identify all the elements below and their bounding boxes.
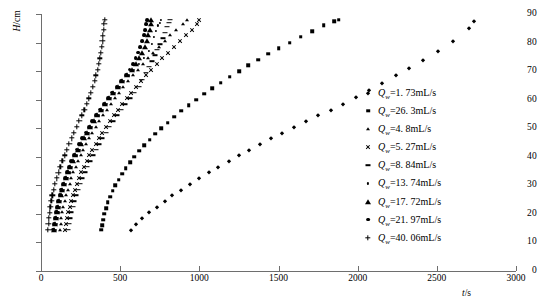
data-point	[58, 164, 63, 169]
data-point	[64, 147, 69, 152]
data-point	[49, 198, 54, 203]
data-point	[50, 193, 55, 198]
legend-marker-triangle-big-icon	[365, 199, 371, 204]
data-point	[56, 170, 61, 175]
x-tick-label: 500	[98, 273, 142, 283]
data-point	[88, 90, 93, 95]
legend-marker-plus-icon	[365, 235, 370, 240]
legend-marker-diamond-icon	[366, 91, 370, 95]
legend-marker-dash-icon	[366, 165, 371, 167]
legend-item[interactable]: Qw=8. 84mL/s	[360, 156, 500, 174]
data-point	[51, 187, 56, 192]
data-point	[54, 175, 59, 180]
data-point	[92, 78, 97, 83]
data-point	[46, 221, 51, 226]
legend-item[interactable]: Qw=40. 06mL/s	[360, 229, 500, 247]
x-tick-label: 0	[19, 273, 63, 283]
legend-marker-cross-icon	[366, 145, 371, 150]
x-tick-label: 1000	[177, 273, 221, 283]
data-point	[46, 215, 51, 220]
data-point	[84, 101, 89, 106]
data-point	[74, 124, 79, 129]
data-point	[101, 27, 106, 32]
x-tick-label: 2500	[415, 273, 459, 283]
legend-item[interactable]: Qw=26. 3mL/s	[360, 102, 500, 120]
legend-item[interactable]: Qw=17. 72mL/s	[360, 193, 500, 211]
legend-item[interactable]: Qw=4. 8mL/s	[360, 120, 500, 138]
x-tick	[516, 266, 517, 271]
legend-marker-triangle-small-icon	[366, 128, 370, 131]
data-point	[95, 67, 100, 72]
legend-marker-dot-icon	[367, 182, 369, 184]
legend-marker-circle-icon	[366, 218, 370, 222]
data-point	[66, 141, 71, 146]
data-point	[100, 38, 105, 43]
data-point	[102, 17, 107, 22]
data-point	[45, 227, 50, 232]
data-point	[99, 44, 104, 49]
data-point	[47, 210, 52, 215]
x-tick-label: 3000	[494, 273, 538, 283]
data-point	[52, 181, 57, 186]
data-point	[69, 136, 74, 141]
data-point	[71, 130, 76, 135]
x-axis-line	[41, 271, 516, 272]
legend-item[interactable]: Qw=5. 27mL/s	[360, 138, 500, 156]
y-tick	[36, 271, 41, 272]
data-point	[48, 204, 53, 209]
x-tick-label: 1500	[257, 273, 301, 283]
data-point	[97, 56, 102, 61]
data-point	[90, 84, 95, 89]
data-point	[76, 118, 81, 123]
data-point	[100, 33, 105, 38]
data-point	[60, 158, 65, 163]
legend: Qw=1. 73mL/sQw=26. 3mL/sQw=4. 8mL/sQw=5.…	[360, 84, 500, 247]
data-point	[62, 153, 67, 158]
data-point	[79, 113, 84, 118]
y-axis-title: H/cm	[12, 0, 22, 44]
x-axis-title: t/s	[462, 288, 471, 298]
data-point	[82, 107, 87, 112]
data-point	[86, 96, 91, 101]
legend-label: Qw=40. 06mL/s	[378, 231, 441, 249]
data-point	[96, 61, 101, 66]
legend-marker-square-icon	[366, 109, 370, 112]
legend-item[interactable]: Qw=13. 74mL/s	[360, 174, 500, 192]
legend-item[interactable]: Qw=1. 73mL/s	[360, 84, 500, 102]
data-point	[98, 50, 103, 55]
x-tick-label: 2000	[336, 273, 380, 283]
legend-item[interactable]: Qw=21. 97mL/s	[360, 211, 500, 229]
data-point	[93, 73, 98, 78]
